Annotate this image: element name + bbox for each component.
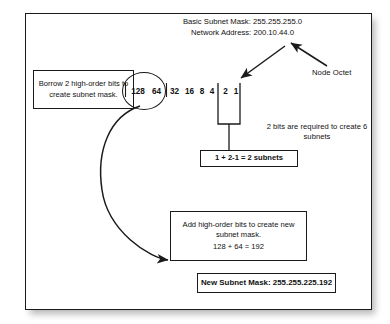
bit-weight-1: 1 — [231, 87, 241, 96]
subnets-equation-box: 1 + 2-1 = 2 subnets — [200, 150, 298, 167]
new-subnet-mask-text: New Subnet Mask: 255.255.225.192 — [201, 278, 332, 288]
bit-weight-row: 128 64 32 16 8 4 2 1 — [128, 84, 241, 98]
bits-required-note: 2 bits are required to create 6 subnets — [264, 122, 370, 143]
subnets-equation-text: 1 + 2-1 = 2 subnets — [215, 153, 283, 163]
bit-weight-32: 32 — [167, 87, 182, 96]
diagram-canvas: Basic Subnet Mask: 255.255.255.0 Network… — [0, 0, 390, 324]
bit-weight-8: 8 — [197, 87, 207, 96]
add-bits-equation-text: 128 + 64 = 192 — [213, 242, 264, 252]
bit-weight-2: 2 — [220, 87, 231, 96]
basic-subnet-mask-text: Basic Subnet Mask: 255.255.255.0 — [150, 16, 335, 27]
bit-weight-4: 4 — [207, 87, 217, 96]
header-text-block: Basic Subnet Mask: 255.255.255.0 Network… — [150, 16, 335, 38]
add-bits-title-text: Add high-order bits to create new subnet… — [176, 220, 301, 241]
new-subnet-mask-box: New Subnet Mask: 255.255.225.192 — [197, 273, 336, 293]
borrow-bits-callout: Borrow 2 high-order bits to create subne… — [33, 70, 134, 109]
bit-weight-64: 64 — [148, 87, 165, 96]
bit-weight-128: 128 — [128, 87, 148, 96]
diagram-frame — [25, 13, 372, 310]
add-high-order-bits-box: Add high-order bits to create new subnet… — [170, 211, 307, 261]
bit-weight-16: 16 — [182, 87, 197, 96]
borrow-bits-text: Borrow 2 high-order bits to create subne… — [38, 79, 129, 100]
node-octet-label: Node Octet — [312, 68, 374, 78]
network-address-text: Network Address: 200.10.44.0 — [150, 27, 335, 38]
